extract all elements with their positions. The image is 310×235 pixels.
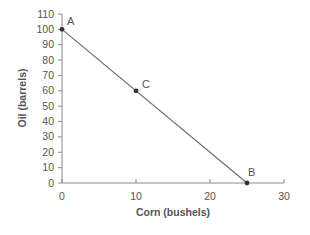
y-tick-label: 20 bbox=[42, 146, 54, 158]
y-tick-label: 70 bbox=[42, 69, 54, 81]
y-tick-label: 90 bbox=[42, 38, 54, 50]
y-axis-ticks: 0102030405060708090100110 bbox=[36, 8, 62, 189]
ppf-line bbox=[62, 29, 247, 183]
x-tick-label: 30 bbox=[278, 190, 290, 202]
data-points: ACB bbox=[60, 15, 256, 185]
y-tick-label: 30 bbox=[42, 130, 54, 142]
point-c bbox=[134, 88, 139, 93]
y-tick-label: 0 bbox=[48, 177, 54, 189]
x-tick-label: 0 bbox=[59, 190, 65, 202]
point-b bbox=[245, 181, 250, 186]
y-tick-label: 40 bbox=[42, 115, 54, 127]
point-label-a: A bbox=[67, 15, 75, 27]
y-axis-title: Oil (barrels) bbox=[16, 69, 28, 128]
y-tick-label: 110 bbox=[37, 8, 54, 20]
point-label-b: B bbox=[248, 166, 255, 178]
y-tick-label: 10 bbox=[42, 161, 54, 173]
y-tick-label: 60 bbox=[42, 84, 54, 96]
y-tick-label: 80 bbox=[42, 54, 54, 66]
x-tick-label: 20 bbox=[204, 190, 216, 202]
point-a bbox=[60, 27, 65, 32]
series-line bbox=[62, 29, 247, 183]
x-tick-label: 10 bbox=[130, 190, 142, 202]
x-axis-ticks: 0102030 bbox=[59, 179, 290, 202]
point-label-c: C bbox=[142, 78, 150, 90]
y-tick-label: 100 bbox=[36, 23, 54, 35]
ppf-chart: 0102030405060708090100110 0102030 ACB Co… bbox=[0, 0, 310, 235]
x-axis-title: Corn (bushels) bbox=[136, 206, 210, 218]
y-tick-label: 50 bbox=[42, 100, 54, 112]
